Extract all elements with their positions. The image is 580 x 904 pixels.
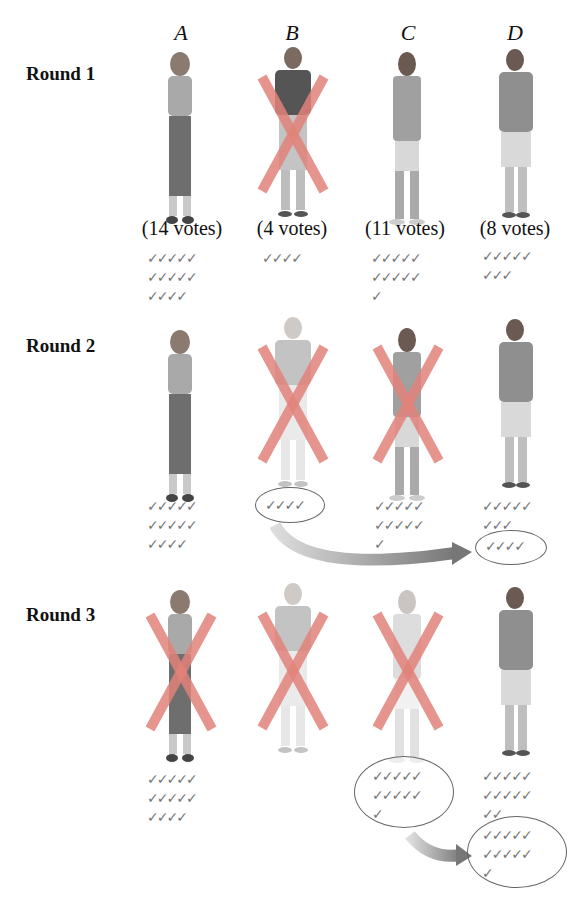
checkmarks-icon: ✓✓✓✓✓ ✓✓✓✓✓ ✓ [372,767,421,824]
round-1-votes-a: (14 votes) [127,217,237,240]
checkmarks-icon: ✓✓✓✓✓ ✓✓✓✓✓ ✓ [374,497,423,554]
checkmarks-icon: ✓✓✓✓✓ ✓✓✓✓✓ ✓✓✓✓ [147,249,196,306]
checkmarks-icon: ✓✓✓✓ [265,496,304,515]
checkmarks-icon: ✓✓✓✓ [262,249,301,268]
checkmarks-icon: ✓✓✓✓✓ ✓✓✓✓✓ ✓✓✓✓ [147,497,196,554]
round-1-votes-b: (4 votes) [237,217,347,240]
candidate-a-figure [166,52,194,224]
checkmarks-icon: ✓✓✓✓✓ ✓✓✓✓✓ ✓ [371,249,420,306]
checkmarks-icon: ✓✓✓✓✓ ✓✓✓✓✓ ✓ [482,826,531,883]
round-1-votes-d: (8 votes) [460,217,570,240]
checkmarks-icon: ✓✓✓✓ [485,537,524,556]
checkmarks-icon: ✓✓✓✓✓ ✓✓✓ [482,247,531,285]
round-1-votes-c: (11 votes) [350,217,460,240]
checkmarks-icon: ✓✓✓✓✓ ✓✓✓✓✓ ✓✓✓✓ [147,770,196,827]
